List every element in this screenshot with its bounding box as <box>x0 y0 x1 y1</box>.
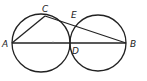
label-e: E <box>71 10 77 20</box>
label-d: D <box>72 46 79 56</box>
label-a: A <box>1 39 8 49</box>
geometry-diagram: A C E D B <box>0 0 147 81</box>
label-c: C <box>42 4 49 14</box>
center-mark <box>52 41 53 42</box>
segment-ac <box>12 16 45 43</box>
label-b: B <box>130 39 136 49</box>
